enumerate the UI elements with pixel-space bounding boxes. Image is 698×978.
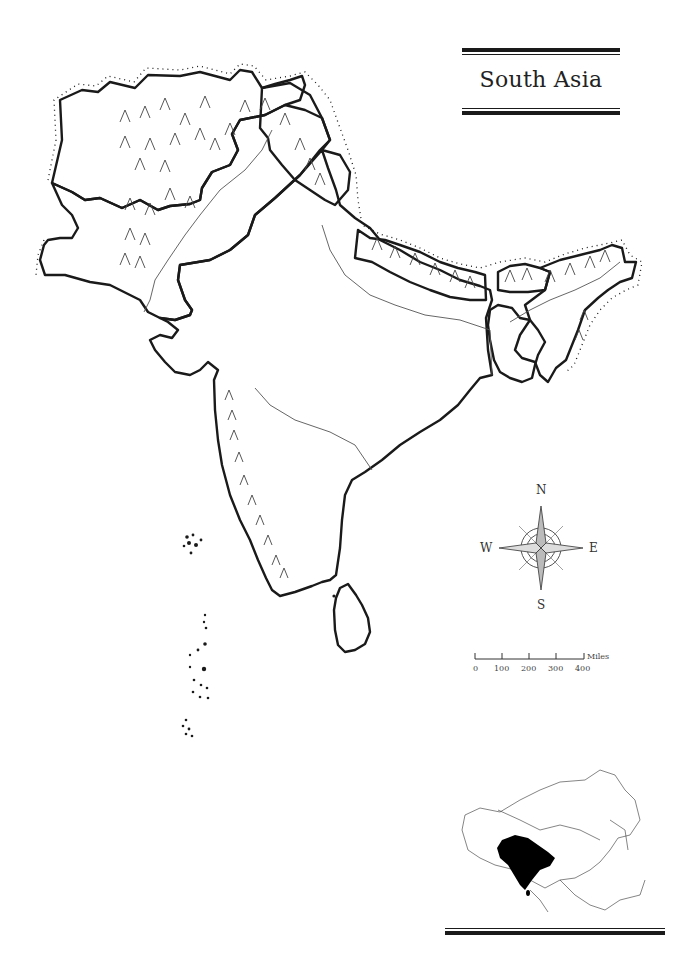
mountain-symbols (120, 96, 610, 578)
scale-tick-100: 100 (494, 664, 509, 673)
compass-rose (499, 506, 583, 590)
scale-unit-label: Miles (587, 652, 609, 661)
compass-south-label: S (537, 598, 545, 612)
pakistan-outline (40, 105, 330, 320)
title-top-rule (462, 48, 620, 57)
south-asia-map (0, 0, 698, 978)
scale-tick-200: 200 (521, 664, 536, 673)
scale-bar (475, 653, 584, 659)
scale-tick-400: 400 (575, 664, 590, 673)
kashmir-outline (260, 83, 350, 205)
compass-west-label: W (480, 541, 492, 555)
india-outline (150, 150, 492, 596)
scale-tick-0: 0 (473, 664, 478, 673)
locator-map (462, 770, 645, 912)
title-bottom-rule (462, 106, 620, 115)
title-cartouche: South Asia (462, 48, 620, 118)
godavari-river (255, 388, 372, 470)
bottom-rule (445, 928, 665, 935)
compass-north-label: N (536, 483, 547, 497)
scale-tick-300: 300 (548, 664, 563, 673)
country-borders (40, 70, 636, 652)
compass-east-label: E (589, 541, 598, 555)
sri-lanka-outline (334, 584, 370, 652)
map-title: South Asia (462, 67, 620, 92)
south-asia-highlight (497, 835, 555, 890)
